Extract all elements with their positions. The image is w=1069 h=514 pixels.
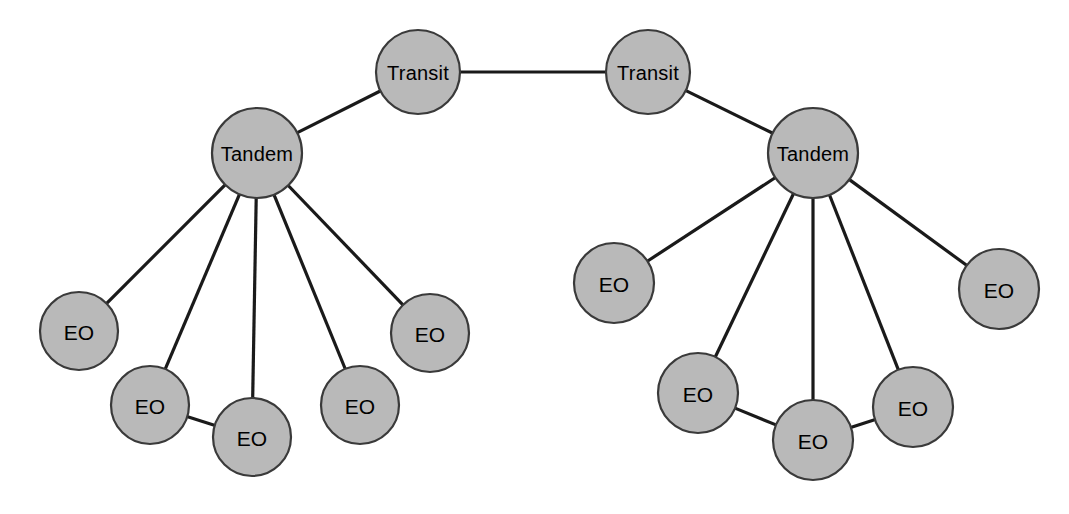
network-link-eo-r3-to-eo-r4 bbox=[849, 419, 877, 428]
network-node-transit-left[interactable]: Transit bbox=[376, 30, 460, 114]
network-node-eo-l3[interactable]: EO bbox=[213, 398, 291, 476]
node-label-eo-l4: EO bbox=[345, 395, 376, 418]
network-link-tandem-left-to-transit-left bbox=[295, 90, 382, 134]
network-node-eo-r4[interactable]: EO bbox=[873, 367, 953, 447]
node-label-tandem-right: Tandem bbox=[777, 143, 849, 165]
network-node-eo-r2[interactable]: EO bbox=[658, 353, 738, 433]
network-link-tandem-left-to-eo-l3 bbox=[253, 196, 257, 400]
node-label-eo-l5: EO bbox=[415, 323, 446, 346]
network-link-tandem-left-to-eo-l4 bbox=[273, 193, 346, 371]
node-label-transit-left: Transit bbox=[387, 62, 449, 84]
network-node-eo-l5[interactable]: EO bbox=[391, 294, 469, 372]
network-node-eo-r3[interactable]: EO bbox=[773, 400, 853, 480]
network-link-eo-r2-to-eo-r3 bbox=[733, 407, 778, 425]
node-label-transit-right: Transit bbox=[617, 62, 679, 84]
network-node-eo-l1[interactable]: EO bbox=[40, 292, 118, 370]
node-label-eo-l1: EO bbox=[64, 321, 95, 344]
node-label-eo-r3: EO bbox=[798, 430, 829, 453]
network-link-tandem-left-to-eo-l2 bbox=[164, 193, 240, 371]
network-link-tandem-right-to-eo-r1 bbox=[646, 177, 777, 263]
network-link-tandem-right-to-eo-r4 bbox=[829, 193, 899, 372]
node-label-eo-l2: EO bbox=[135, 395, 166, 418]
network-link-tandem-left-to-eo-l5 bbox=[287, 184, 405, 306]
network-node-eo-l2[interactable]: EO bbox=[111, 366, 189, 444]
node-label-eo-l3: EO bbox=[237, 427, 268, 450]
node-label-eo-r1: EO bbox=[599, 273, 630, 296]
node-label-eo-r5: EO bbox=[984, 279, 1015, 302]
node-label-eo-r4: EO bbox=[898, 397, 929, 420]
node-label-tandem-left: Tandem bbox=[221, 143, 293, 165]
network-link-eo-l2-to-eo-l3 bbox=[185, 416, 216, 426]
network-node-eo-r1[interactable]: EO bbox=[574, 243, 654, 323]
node-label-eo-r2: EO bbox=[683, 383, 714, 406]
network-link-tandem-right-to-eo-r5 bbox=[848, 178, 969, 266]
network-node-transit-right[interactable]: Transit bbox=[606, 30, 690, 114]
network-node-eo-r5[interactable]: EO bbox=[959, 249, 1039, 329]
network-link-tandem-left-to-eo-l1 bbox=[105, 183, 226, 304]
network-diagram-canvas: TransitTransitTandemTandemEOEOEOEOEOEOEO… bbox=[0, 0, 1069, 514]
network-diagram-root: TransitTransitTandemTandemEOEOEOEOEOEOEO… bbox=[0, 0, 1069, 514]
network-node-tandem-left[interactable]: Tandem bbox=[212, 108, 302, 198]
network-node-tandem-right[interactable]: Tandem bbox=[768, 108, 858, 198]
network-node-eo-l4[interactable]: EO bbox=[321, 366, 399, 444]
nodes-layer: TransitTransitTandemTandemEOEOEOEOEOEOEO… bbox=[40, 30, 1039, 480]
network-link-tandem-right-to-transit-right bbox=[684, 90, 774, 134]
network-link-tandem-right-to-eo-r2 bbox=[714, 192, 794, 359]
